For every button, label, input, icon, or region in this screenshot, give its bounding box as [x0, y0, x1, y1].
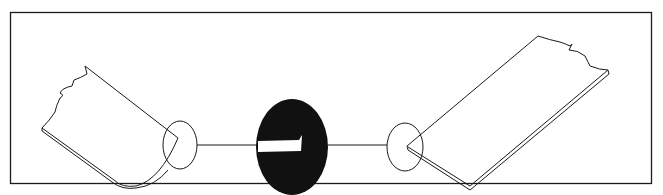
right-detail-circle — [387, 123, 423, 171]
left-detail-circle — [163, 121, 197, 169]
frame-border — [11, 13, 652, 184]
left-panel — [42, 66, 178, 188]
right-panel — [407, 36, 609, 190]
diagram — [0, 0, 663, 195]
